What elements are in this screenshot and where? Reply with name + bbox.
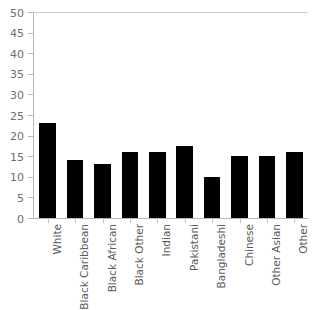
bar-column	[39, 12, 55, 218]
x-axis-label: Pakistani	[189, 224, 200, 271]
x-axis-label: Chinese	[244, 224, 255, 266]
y-axis-tick-label: 50	[10, 7, 24, 18]
x-axis-tick	[212, 219, 213, 223]
y-axis-tick-label: 0	[17, 213, 24, 224]
x-axis-tick	[48, 219, 49, 223]
x-axis-label: Bangladeshi	[216, 224, 227, 288]
y-axis-tick-label: 5	[17, 192, 24, 203]
y-axis-tick-label: 35	[10, 69, 24, 80]
x-axis-tick	[130, 219, 131, 223]
y-axis-tick: 30	[28, 94, 33, 95]
y-axis-tick-label: 15	[10, 151, 24, 162]
y-axis-tick: 50	[28, 12, 33, 13]
bar	[231, 156, 247, 218]
bar-column	[231, 12, 247, 218]
y-axis-tick: 45	[28, 33, 33, 34]
x-axis-label: Indian	[161, 224, 172, 256]
y-axis-tick: 5	[28, 197, 33, 198]
bar	[39, 123, 55, 218]
plot-area	[34, 12, 308, 218]
x-axis-tick	[294, 219, 295, 223]
x-axis-tick	[157, 219, 158, 223]
x-axis-label: White	[52, 224, 63, 255]
y-axis-tick-label: 25	[10, 110, 24, 121]
bar-column	[259, 12, 275, 218]
bar	[259, 156, 275, 218]
x-axis-tick	[185, 219, 186, 223]
bar-column	[286, 12, 302, 218]
bar-column	[176, 12, 192, 218]
cut-off-title	[60, 0, 210, 4]
y-axis-tick: 40	[28, 53, 33, 54]
bar	[149, 152, 165, 218]
bar	[122, 152, 138, 218]
y-axis-tick: 15	[28, 156, 33, 157]
x-axis-tick	[240, 219, 241, 223]
y-axis-tick-label: 40	[10, 48, 24, 59]
bar-column	[149, 12, 165, 218]
y-axis-tick-label: 10	[10, 172, 24, 183]
y-axis-tick-label: 45	[10, 28, 24, 39]
bar	[94, 164, 110, 218]
bar-column	[94, 12, 110, 218]
x-axis-label: Other	[298, 224, 309, 254]
x-axis-tick	[267, 219, 268, 223]
y-axis-tick-label: 20	[10, 131, 24, 142]
x-axis-label: Black Caribbean	[79, 224, 90, 310]
x-axis-label: Other Asian	[271, 224, 282, 286]
y-axis-tick: 25	[28, 115, 33, 116]
bar	[286, 152, 302, 218]
bar-column	[204, 12, 220, 218]
y-axis-tick: 20	[28, 136, 33, 137]
bar-column	[122, 12, 138, 218]
x-axis-tick	[103, 219, 104, 223]
x-axis-label: Black African	[107, 224, 118, 292]
bar	[204, 177, 220, 218]
y-axis-tick: 35	[28, 74, 33, 75]
x-axis-tick	[75, 219, 76, 223]
y-axis-tick-label: 30	[10, 89, 24, 100]
bar-column	[67, 12, 83, 218]
bar	[67, 160, 83, 218]
y-axis-tick: 10	[28, 177, 33, 178]
y-axis-tick: 0	[28, 218, 33, 219]
x-axis-label: Black Other	[134, 224, 145, 286]
bar	[176, 146, 192, 218]
